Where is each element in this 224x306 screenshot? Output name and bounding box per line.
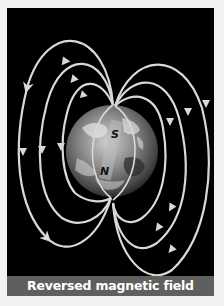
north-pole-label: N	[100, 165, 109, 178]
south-pole-label: S	[111, 128, 119, 141]
magnetic-field-illustration	[7, 8, 214, 296]
figure-caption: Reversed magnetic field	[7, 276, 214, 296]
figure-panel: S N Reversed magnetic field	[7, 8, 214, 296]
